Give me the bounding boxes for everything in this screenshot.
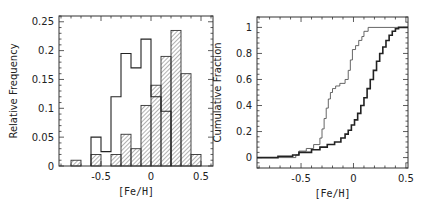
x-tick-label: 0.5: [193, 171, 209, 182]
x-tick-label: 0: [148, 171, 154, 182]
x-tick-label: -0.5: [291, 173, 311, 184]
x-tick-label: 0: [350, 173, 356, 184]
y-tick-label: 0.8: [236, 48, 252, 59]
figure: -0.500.500.050.10.150.20.25[Fe/H]Relativ…: [0, 0, 424, 207]
hatched-bar: [171, 30, 181, 166]
y-tick-label: 0.2: [236, 126, 252, 137]
y-tick-label: 0.25: [32, 16, 54, 27]
y-tick-label: 0.4: [236, 100, 252, 111]
hatched-bar: [181, 74, 191, 166]
hatched-bar: [131, 149, 141, 166]
y-tick-label: 0: [246, 152, 252, 163]
y-tick-label: 0: [48, 161, 54, 172]
hatched-bar: [121, 134, 131, 166]
y-tick-label: 1: [246, 22, 252, 33]
x-axis-label: [Fe/H]: [314, 188, 350, 199]
hatched-bar: [141, 105, 151, 166]
y-tick-label: 0.05: [32, 132, 54, 143]
x-axis-label: [Fe/H]: [118, 186, 154, 197]
hatched-bar: [71, 160, 81, 166]
hatched-bar: [91, 154, 101, 166]
y-axis-label: Relative Frequency: [8, 43, 19, 138]
x-tick-label: 0.5: [398, 173, 414, 184]
hatched-bar: [111, 154, 121, 166]
y-tick-label: 0.1: [38, 103, 54, 114]
y-tick-label: 0.6: [236, 74, 252, 85]
hatched-bar: [191, 154, 201, 166]
y-tick-label: 0.15: [32, 74, 54, 85]
histogram-panel: -0.500.500.050.10.150.20.25[Fe/H]Relativ…: [0, 0, 424, 207]
hatched-bar: [151, 85, 161, 166]
y-tick-label: 0.2: [38, 45, 54, 56]
x-tick-label: -0.5: [91, 171, 111, 182]
y-axis-label: Cumulative Fraction: [212, 42, 223, 142]
